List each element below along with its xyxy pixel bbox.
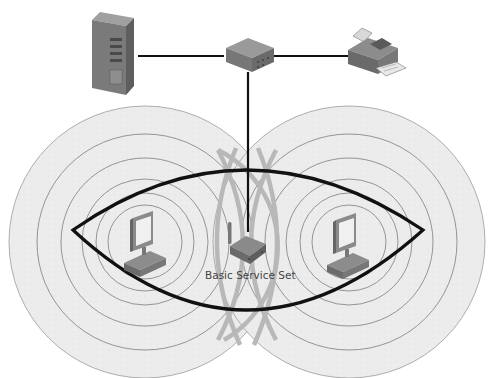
diagram-canvas bbox=[0, 0, 494, 378]
server-icon[interactable] bbox=[92, 12, 134, 95]
switch-icon[interactable] bbox=[226, 38, 274, 72]
printer-icon[interactable] bbox=[348, 28, 406, 76]
bss-label: Basic Service Set bbox=[205, 269, 296, 281]
bss-diagram: Basic Service Set bbox=[0, 0, 494, 378]
